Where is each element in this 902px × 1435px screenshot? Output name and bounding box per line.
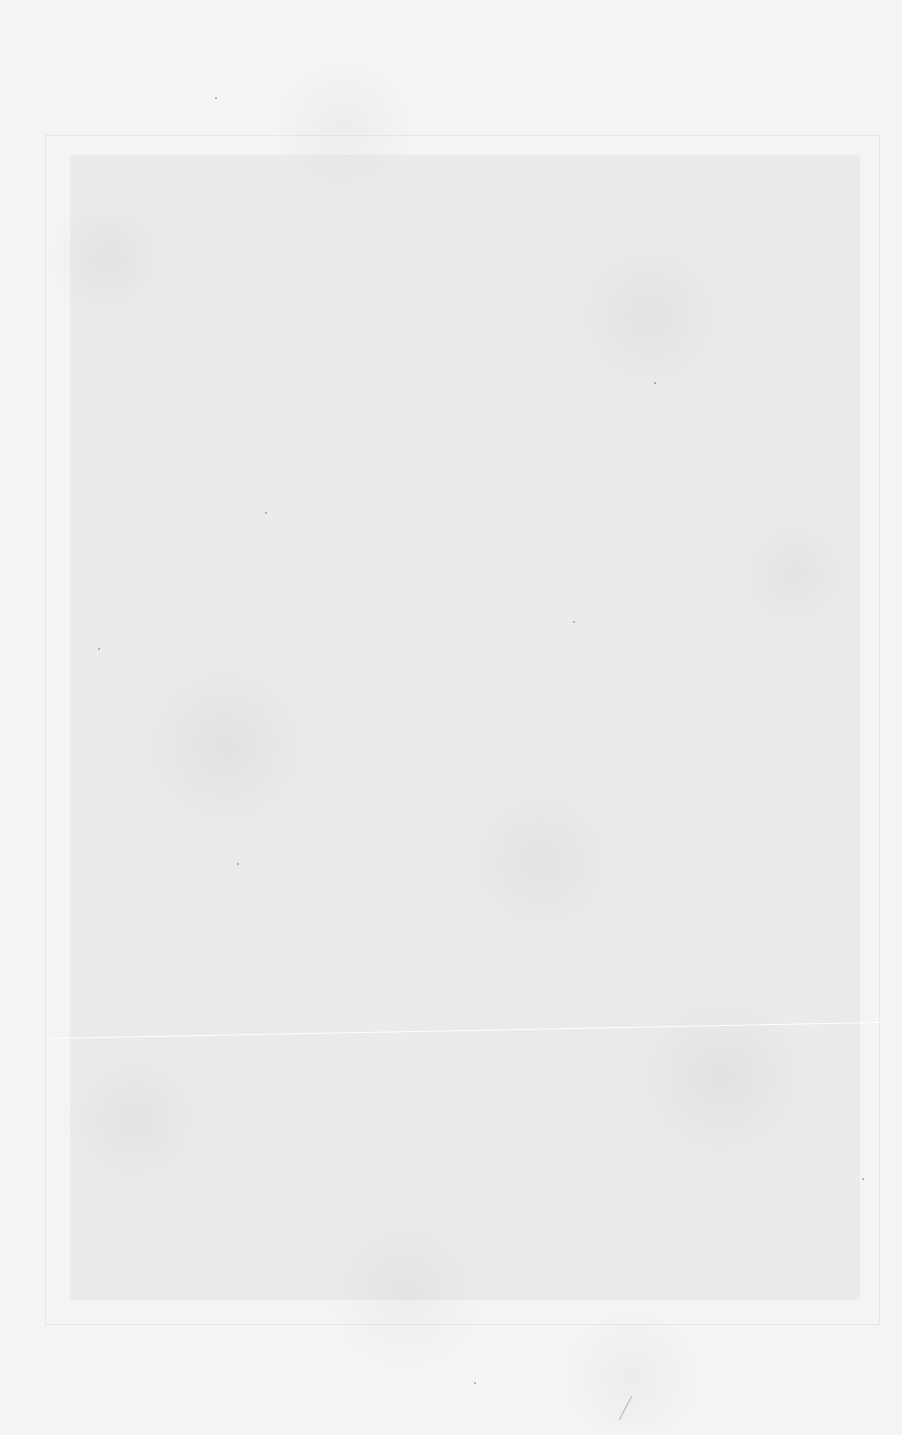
paper-speck (265, 512, 267, 514)
paper-sheet (0, 0, 902, 1435)
paper-speck (862, 1178, 864, 1180)
paper-speck (573, 621, 575, 623)
paper-speck (98, 648, 100, 650)
paper-speck (474, 1382, 476, 1384)
paper-fiber (619, 1396, 632, 1419)
blank-image-area (70, 155, 860, 1300)
paper-speck (215, 97, 217, 99)
paper-speck (654, 382, 656, 384)
paper-speck (237, 863, 239, 865)
